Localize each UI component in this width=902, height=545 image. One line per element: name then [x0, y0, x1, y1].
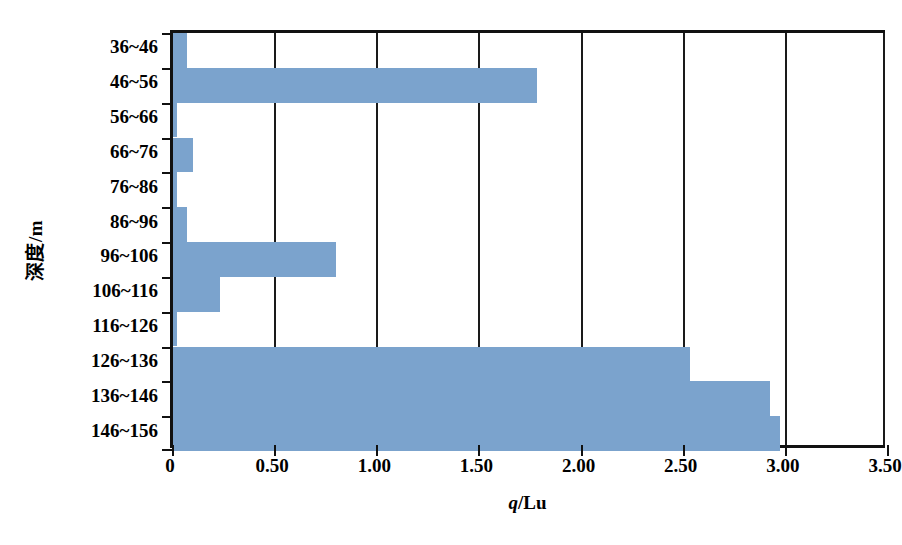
y-axis-tick-label: 136~146	[58, 378, 166, 413]
bar-row	[173, 312, 888, 347]
x-axis-tick-label: 2.00	[562, 455, 595, 477]
bar	[173, 416, 780, 451]
x-axis-tick-label: 2.50	[664, 455, 697, 477]
bar-row	[173, 381, 888, 416]
x-axis-title-unit: /Lu	[518, 492, 547, 513]
y-axis-tick-label: 126~136	[58, 343, 166, 378]
y-axis-tick	[162, 33, 173, 35]
y-axis-tick	[162, 277, 173, 279]
y-axis-tick-label: 96~106	[58, 239, 166, 274]
bar-row	[173, 68, 888, 103]
bar-row	[173, 33, 888, 68]
y-axis-tick	[162, 416, 173, 418]
y-axis-tick	[162, 381, 173, 383]
y-axis-tick-label: 76~86	[58, 169, 166, 204]
y-axis-tick	[162, 172, 173, 174]
bar-row	[173, 347, 888, 382]
bar-row	[173, 416, 888, 451]
bar-row	[173, 242, 888, 277]
y-axis-tick-label: 146~156	[58, 413, 166, 448]
y-axis-tick-label: 36~46	[58, 30, 166, 65]
bar-row	[173, 172, 888, 207]
x-axis-tick-label: 1.00	[358, 455, 391, 477]
y-axis-tick	[162, 207, 173, 209]
y-axis-tick-label: 56~66	[58, 100, 166, 135]
bar	[173, 33, 187, 68]
bar	[173, 381, 770, 416]
bar	[173, 138, 193, 173]
x-axis-tick-label: 1.50	[460, 455, 493, 477]
x-axis-tick-label: 3.50	[868, 455, 901, 477]
y-axis-title: 深度/m	[14, 150, 54, 350]
bar	[173, 68, 537, 103]
bar	[173, 277, 220, 312]
x-axis-tick-label: 3.00	[766, 455, 799, 477]
y-axis-tick	[162, 68, 173, 70]
bars-layer	[173, 33, 885, 445]
x-axis-tick-labels: 00.501.001.502.002.503.003.50	[170, 455, 885, 483]
bar-row	[173, 277, 888, 312]
y-axis-tick-label: 116~126	[58, 309, 166, 344]
bar	[173, 347, 690, 382]
y-axis-tick-label: 86~96	[58, 204, 166, 239]
y-axis-tick-label: 46~56	[58, 65, 166, 100]
y-axis-tick-labels: 36~4646~5656~6666~7676~8686~9696~106106~…	[58, 30, 166, 448]
bar	[173, 172, 177, 207]
bar-row	[173, 207, 888, 242]
y-axis-tick	[162, 312, 173, 314]
y-axis-tick	[162, 242, 173, 244]
y-axis-tick-label: 66~76	[58, 134, 166, 169]
x-axis-title-symbol: q	[508, 492, 518, 513]
y-axis-tick	[162, 347, 173, 349]
bar	[173, 312, 177, 347]
bar-row	[173, 138, 888, 173]
plot-area	[170, 30, 885, 448]
bar-row	[173, 103, 888, 138]
x-axis-tick-label: 0.50	[256, 455, 289, 477]
y-axis-title-text: 深度/m	[21, 219, 48, 280]
y-axis-tick	[162, 138, 173, 140]
bar	[173, 103, 177, 138]
y-axis-tick	[162, 103, 173, 105]
y-axis-tick-label: 106~116	[58, 274, 166, 309]
x-axis-tick-label: 0	[165, 455, 175, 477]
bar	[173, 207, 187, 242]
bar	[173, 242, 336, 277]
x-axis-title: q/Lu	[170, 492, 885, 514]
